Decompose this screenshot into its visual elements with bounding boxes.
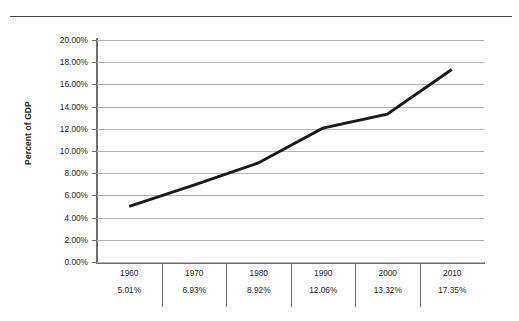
category-column: 19605.01% xyxy=(97,263,162,307)
data-value-label: 5.01% xyxy=(117,284,141,296)
data-value-label: 17.35% xyxy=(438,284,466,296)
y-axis-tick-label: 18.00% xyxy=(60,57,88,67)
y-axis-tick-label: 20.00% xyxy=(60,35,88,45)
x-axis-category-label: 1990 xyxy=(314,267,332,279)
y-axis-tick xyxy=(92,62,96,63)
category-column: 19808.92% xyxy=(226,263,291,307)
x-axis-category-label: 2010 xyxy=(443,267,461,279)
y-axis-tick-label: 12.00% xyxy=(60,124,88,134)
chart-figure: Percent of GDP 20.00%18.00%16.00%14.00%1… xyxy=(0,0,519,321)
y-axis-title: Percent of GDP xyxy=(23,78,33,188)
y-axis-tick-label: 10.00% xyxy=(60,146,88,156)
y-axis-tick-label: 0.00% xyxy=(64,257,88,267)
y-axis-tick xyxy=(92,195,96,196)
y-axis-tick-label: 4.00% xyxy=(64,213,88,223)
header-divider xyxy=(10,16,512,17)
category-value-table: 19605.01%19706.93%19808.92%199012.06%200… xyxy=(97,263,484,307)
y-axis-tick-label: 16.00% xyxy=(60,79,88,89)
y-axis-tick-label: 8.00% xyxy=(64,168,88,178)
y-axis-tick-label: 14.00% xyxy=(60,102,88,112)
y-axis-tick xyxy=(92,40,96,41)
y-axis-tick xyxy=(92,129,96,130)
x-axis-category-label: 1970 xyxy=(185,267,203,279)
y-axis-tick xyxy=(92,84,96,85)
category-column: 200013.32% xyxy=(355,263,420,307)
y-axis-tick xyxy=(92,151,96,152)
plot-area: 20.00%18.00%16.00%14.00%12.00%10.00%8.00… xyxy=(97,40,484,262)
category-column: 199012.06% xyxy=(291,263,356,307)
y-axis-tick xyxy=(92,240,96,241)
x-axis-category-label: 1960 xyxy=(120,267,138,279)
data-value-label: 13.32% xyxy=(374,284,402,296)
y-axis-tick xyxy=(92,262,96,263)
data-value-label: 6.93% xyxy=(182,284,206,296)
category-column: 19706.93% xyxy=(162,263,227,307)
x-axis-category-label: 2000 xyxy=(379,267,397,279)
y-axis-tick xyxy=(92,107,96,108)
category-column: 201017.35% xyxy=(420,263,485,307)
y-axis-tick xyxy=(92,173,96,174)
y-axis-tick-label: 6.00% xyxy=(64,190,88,200)
data-series-line xyxy=(97,40,484,262)
y-axis-tick-label: 2.00% xyxy=(64,235,88,245)
data-value-label: 8.92% xyxy=(247,284,271,296)
y-axis-tick xyxy=(92,218,96,219)
data-value-label: 12.06% xyxy=(309,284,337,296)
x-axis-category-label: 1980 xyxy=(250,267,268,279)
